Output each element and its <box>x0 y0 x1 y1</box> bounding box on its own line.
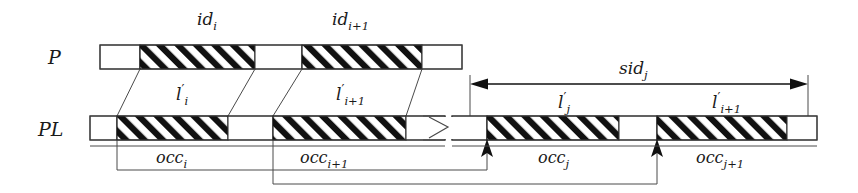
pl-seg-hatched-i <box>117 116 228 140</box>
p-seg-plain-2 <box>255 45 302 69</box>
pl-seg-hatched-i-plus-1 <box>273 116 406 140</box>
p-seg-plain-1 <box>100 45 140 69</box>
occj-base: occ <box>538 148 566 167</box>
pl-seg-plain-6 <box>787 116 817 140</box>
row-label-pl: PL <box>37 118 63 140</box>
occ-label-j-plus-1: occj+1 <box>696 148 744 171</box>
p-seg-hatched-i-plus-1 <box>302 45 422 69</box>
lpi-sub: i <box>184 94 188 108</box>
occi-base: occ <box>156 148 184 167</box>
occ-label-j: occj <box>538 148 570 171</box>
figure-root: P PL idi idi+1 <box>0 0 858 193</box>
span-arrow-left-head <box>470 79 488 90</box>
mid-label-l-prime-j: l′j <box>558 90 570 116</box>
row-label-p: P <box>47 46 62 68</box>
id-i-base: id <box>197 9 213 29</box>
p-seg-hatched-i <box>140 45 255 69</box>
id-i1-base: id <box>332 9 348 29</box>
id-i-sub: i <box>213 19 217 33</box>
connector-2 <box>228 69 255 116</box>
occi-sub: i <box>184 157 188 171</box>
svg-text:idi+1: idi+1 <box>332 9 369 33</box>
top-label-id-i-plus-1: idi+1 <box>332 9 369 33</box>
svg-text:l′i+1: l′i+1 <box>336 82 365 108</box>
lpr-sub: i+1 <box>720 102 741 116</box>
occj1-base: occ <box>696 148 724 167</box>
svg-text:occi+1: occi+1 <box>300 148 348 171</box>
svg-text:idi: idi <box>197 9 217 33</box>
occ-label-i: occi <box>156 148 188 171</box>
svg-text:occj+1: occj+1 <box>696 148 744 171</box>
p-seg-plain-3 <box>422 45 462 69</box>
mid-label-l-prime-i-plus-1: l′i+1 <box>336 82 365 108</box>
lpi1-sub: i+1 <box>344 94 365 108</box>
svg-text:l′i+1: l′i+1 <box>712 90 741 116</box>
pl-seg-plain-2 <box>228 116 273 140</box>
pl-seg-plain-5 <box>619 116 657 140</box>
pl-seg-hatched-j <box>487 116 619 140</box>
svg-text:occj: occj <box>538 148 570 171</box>
pattern-bar <box>100 45 462 69</box>
id-i1-sub: i+1 <box>348 19 369 33</box>
top-label-id-i: idi <box>197 9 217 33</box>
occi1-sub: i+1 <box>328 157 349 171</box>
pl-seg-plain-4 <box>452 116 487 140</box>
diagram-canvas: P PL idi idi+1 <box>0 0 858 193</box>
mid-label-l-prime-i: l′i <box>176 82 188 108</box>
svg-text:l′j: l′j <box>558 90 570 116</box>
occi1-base: occ <box>300 148 328 167</box>
alignment-connectors <box>117 69 422 116</box>
pl-seg-plain-1 <box>90 116 117 140</box>
pl-seg-hatched-j-plus-1 <box>657 116 787 140</box>
sidj-base: sid <box>619 58 644 78</box>
sid-j-span-label: sidj <box>619 58 648 82</box>
occj1-sub: j+1 <box>721 157 745 171</box>
occ-label-i-plus-1: occi+1 <box>300 148 348 171</box>
connector-3 <box>273 69 302 116</box>
mid-label-l-prime-i-plus-1-right: l′i+1 <box>712 90 741 116</box>
svg-text:occi: occi <box>156 148 188 171</box>
span-arrow-right-head <box>790 79 808 90</box>
svg-text:l′i: l′i <box>176 82 188 108</box>
connector-1 <box>117 69 140 116</box>
connector-4 <box>406 69 422 116</box>
svg-text:sidj: sidj <box>619 58 648 82</box>
